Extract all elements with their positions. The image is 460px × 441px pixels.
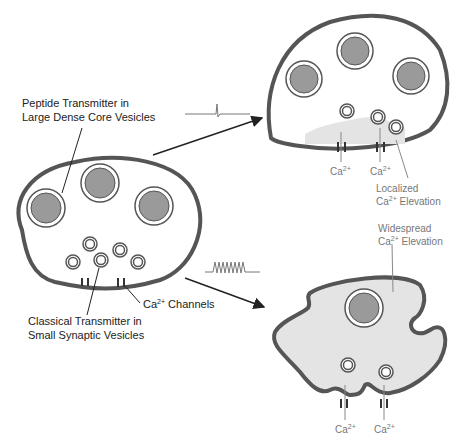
- dense-core-vesicle: [81, 164, 119, 202]
- ca-ion-label: Ca2+: [374, 423, 395, 435]
- dense-core-vesicle: [286, 61, 322, 97]
- ca-channels-label: Ca2+ Channels: [125, 286, 215, 310]
- dense-core-vesicle: [337, 33, 373, 69]
- localized-label: Ca2+ Elevation: [376, 195, 441, 207]
- svg-text:Ca2+ Channels: Ca2+ Channels: [143, 298, 215, 310]
- dense-core-vesicle: [135, 187, 173, 225]
- svg-text:Small Synaptic Vesicles: Small Synaptic Vesicles: [28, 329, 145, 341]
- arrow-to-localized: [153, 118, 262, 155]
- localized-terminal: Ca2+ Ca2+ Localized Ca2+ Elevation: [269, 16, 448, 207]
- localized-label: Localized: [376, 183, 418, 194]
- widespread-label: Ca2+ Elevation: [378, 235, 443, 247]
- ca-channels: [341, 399, 387, 408]
- svg-text:Peptide Transmitter in: Peptide Transmitter in: [22, 97, 129, 109]
- spike-train-trace: [205, 262, 260, 273]
- dense-core-vesicle: [393, 58, 429, 94]
- svg-text:Classical Transmitter in: Classical Transmitter in: [28, 315, 142, 327]
- ca-ion-label: Ca2+: [335, 423, 356, 435]
- diagram-canvas: Peptide Transmitter in Large Dense Core …: [0, 0, 460, 441]
- dense-core-vesicle: [345, 289, 383, 327]
- dense-core-vesicle: [27, 189, 65, 227]
- widespread-label: Widespread: [378, 223, 431, 234]
- widespread-terminal: Ca2+ Ca2+ Widespread Ca2+ Elevation: [274, 223, 445, 435]
- svg-text:Large Dense Core Vesicles: Large Dense Core Vesicles: [22, 111, 156, 123]
- single-spike-trace: [185, 104, 250, 117]
- resting-terminal: [19, 158, 201, 288]
- ca-ion-label: Ca2+: [330, 165, 351, 177]
- ca-ion-label: Ca2+: [370, 165, 391, 177]
